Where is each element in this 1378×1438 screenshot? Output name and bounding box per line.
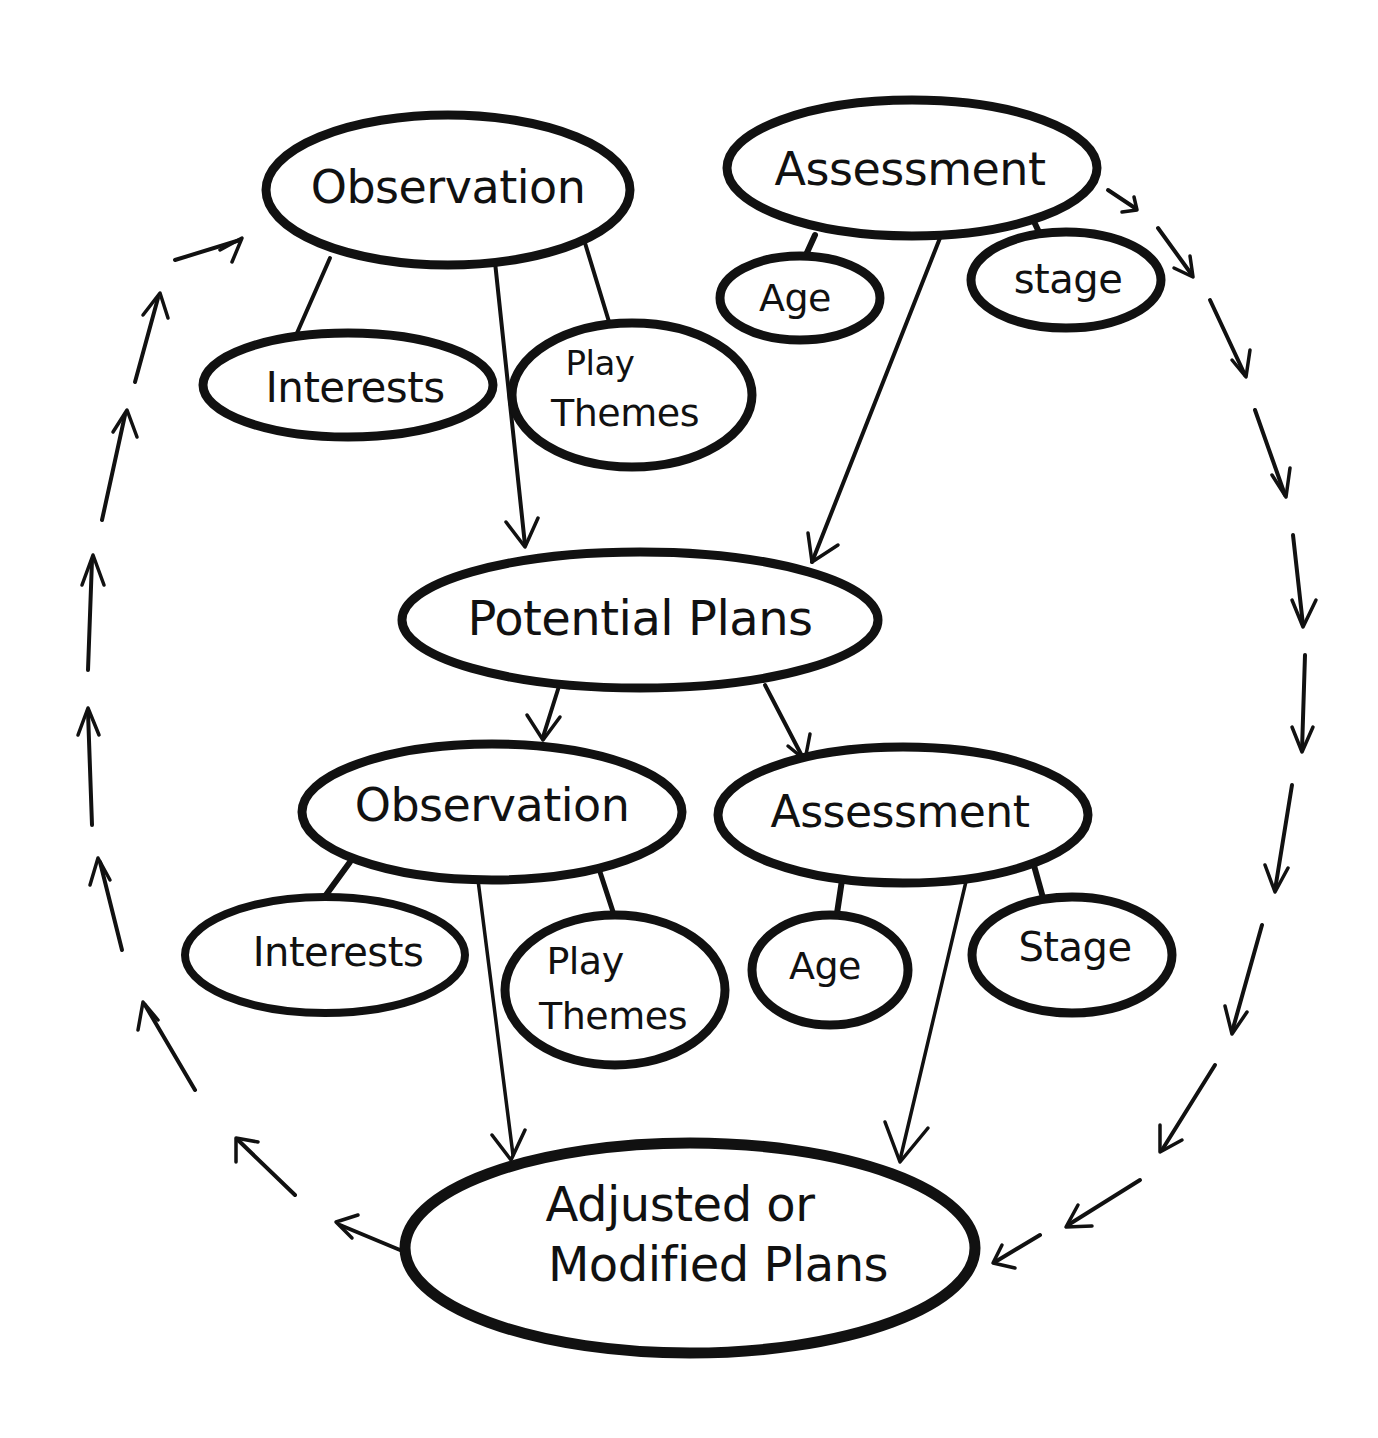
node-label: Interests: [265, 363, 444, 412]
edge-observation-interests-1: [297, 258, 330, 333]
node-interests-bottom: Interests: [185, 897, 465, 1013]
cycle-diagram: Observation Assessment Interests Play Th…: [0, 0, 1378, 1438]
node-label: Observation: [355, 778, 630, 832]
node-label: Assessment: [775, 142, 1046, 196]
node-label: Stage: [1018, 924, 1131, 970]
node-label-line1: Play: [546, 939, 623, 983]
node-assessment-top: Assessment: [727, 100, 1097, 236]
node-age-bottom: Age: [752, 915, 908, 1025]
node-label: Assessment: [771, 786, 1030, 837]
arrowhead-icon: [492, 1130, 525, 1160]
node-label-line1: Play: [566, 343, 635, 383]
node-assessment-bottom: Assessment: [718, 747, 1088, 883]
node-observation-top: Observation: [266, 115, 630, 265]
node-playthemes-bottom: Play Themes: [505, 915, 725, 1065]
cycle-right-arrows: [993, 190, 1316, 1268]
node-potential-plans: Potential Plans: [402, 552, 878, 688]
node-label-line2: Themes: [550, 391, 699, 435]
edge-observation-playthemes-1: [585, 243, 610, 325]
node-label: Age: [789, 944, 861, 988]
edge-potential-assessment2: [765, 685, 803, 758]
node-label: Potential Plans: [467, 590, 812, 646]
node-playthemes-top: Play Themes: [512, 323, 752, 467]
node-age-top: Age: [720, 256, 880, 340]
node-stage-bottom: Stage: [972, 897, 1172, 1013]
node-label-line2: Themes: [538, 994, 687, 1038]
node-label: stage: [1014, 256, 1123, 302]
node-label: Age: [759, 276, 831, 320]
node-label-line2: Modified Plans: [548, 1236, 888, 1292]
node-observation-bottom: Observation: [302, 744, 682, 880]
edge-assessment2-adjusted: [900, 873, 968, 1160]
node-label-line1: Adjusted or: [546, 1176, 816, 1232]
node-interests-top: Interests: [203, 333, 493, 437]
node-label: Observation: [311, 160, 586, 214]
node-label: Interests: [253, 929, 423, 975]
node-stage-top: stage: [971, 232, 1161, 328]
node-adjusted-plans: Adjusted or Modified Plans: [405, 1143, 975, 1353]
